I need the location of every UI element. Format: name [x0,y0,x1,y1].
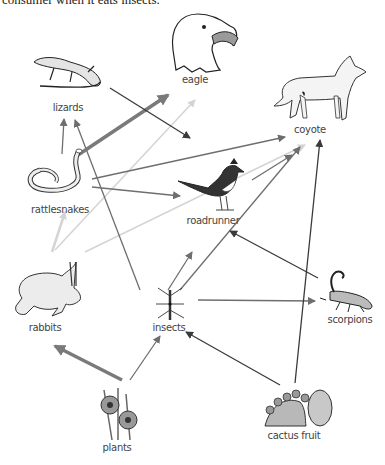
arrow-rattlesnakes-lizards [62,119,64,154]
label-eagle: eagle [182,74,208,85]
eagle-icon [172,14,238,72]
arrow-insects-scorpions [198,300,315,301]
arrow-insects-roadrunner [168,252,192,290]
lizard-icon [34,58,100,88]
arrow-rattlesnakes-coyote [92,137,285,179]
label-cactus-fruit: cactus fruit [268,430,321,441]
label-coyote: coyote [294,124,326,135]
arrow-rabbits-coyote [85,145,305,252]
label-rabbits: rabbits [29,322,62,333]
insect-icon [156,288,184,320]
food-web-diagram [0,0,385,465]
arrow-plants-rabbits [55,346,122,380]
arrow-rattlesnakes-roadrunner [92,187,180,196]
label-lizards: lizards [53,102,83,113]
arrow-cactus-fruit-coyote [295,140,320,383]
scorpion-icon [320,272,372,312]
arrow-cactus-fruit-insects [186,332,280,385]
rabbit-icon [16,262,81,316]
rattlesnake-icon [30,149,82,190]
label-rattlesnakes: rattlesnakes [31,204,89,215]
label-plants: plants [103,442,132,453]
arrow-plants-insects [130,336,160,380]
label-insects: insects [152,322,185,333]
arrow-lizards-roadrunner [110,88,190,138]
label-scorpions: scorpions [327,314,372,325]
cactus-fruit-icon [265,390,332,426]
arrow-scorpions-roadrunner [230,231,318,278]
plants-icon [101,388,137,440]
coyote-icon [274,56,366,120]
arrow-rattlesnakes-eagle [78,95,168,155]
label-roadrunner: roadrunner [187,215,240,226]
